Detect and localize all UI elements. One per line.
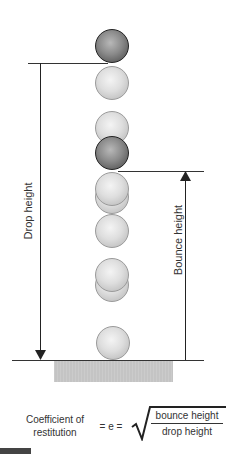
drop-height-arrowhead-icon [35,350,46,360]
drop-height-label: Drop height [22,181,34,241]
ball-light [95,258,129,292]
bounce-height-label: Bounce height [172,204,184,276]
bounce-height-arrow-shaft [185,176,186,360]
drop-height-arrow-shaft [40,63,41,355]
ground-surface [54,361,173,382]
ball-light [95,172,129,206]
ball-light [95,66,129,100]
formula-denominator: drop height [150,425,224,438]
formula-lhs-line2: restitution [22,426,88,439]
formula-equals: = e = [96,420,126,433]
formula-lhs: Coefficient of restitution [22,413,88,439]
ball-light [95,214,129,248]
ball-dark-bounce-peak [95,136,129,170]
bounce-height-top-line [118,171,204,172]
ball-ground-contact [96,326,130,360]
footer-bar [0,448,31,454]
formula-lhs-line1: Coefficient of [22,413,88,426]
ball-dark-drop-start [95,29,129,63]
formula-numerator: bounce height [150,409,224,422]
bounce-height-arrowhead-icon [180,171,191,181]
fraction-bar [151,423,223,424]
